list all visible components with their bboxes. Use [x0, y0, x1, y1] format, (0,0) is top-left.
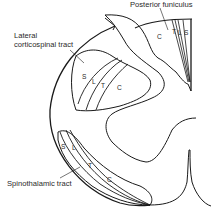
lcst-seg-l: L	[92, 78, 96, 85]
lcst-seg-t: T	[101, 82, 105, 89]
pf-seg-c: C	[157, 33, 162, 40]
lcst-seg-s: S	[82, 73, 87, 80]
spinothalamic-label: Spinothalamic tract	[7, 179, 72, 188]
lateral-corticospinal-region	[72, 50, 151, 111]
lateral-cst-label-line2: corticospinal tract	[14, 40, 74, 49]
pf-seg-l: L	[178, 29, 182, 36]
stt-seg-s: S	[61, 143, 66, 150]
spinal-cord-diagram: Posterior funiculus Lateral corticospina…	[0, 0, 211, 212]
pf-leader-line	[160, 8, 168, 30]
lateral-cst-label-line1: Lateral	[14, 31, 38, 40]
stt-seg-t: T	[88, 162, 92, 169]
anterior-median-fissure	[150, 150, 211, 206]
stt-seg-l: L	[72, 144, 76, 151]
lcst-seg-c: C	[117, 84, 122, 91]
pf-seg-s: S	[184, 29, 189, 36]
posterior-funiculus-label: Posterior funiculus	[130, 0, 193, 9]
pf-seg-t: T	[172, 28, 176, 35]
stt-seg-c: C	[107, 176, 112, 183]
